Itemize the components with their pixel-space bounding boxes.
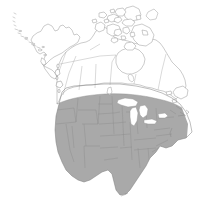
anticosti-island bbox=[166, 91, 172, 95]
arctic-islet-b bbox=[130, 32, 135, 37]
bc-islet-c bbox=[58, 89, 60, 92]
bc-islet-a bbox=[57, 64, 59, 68]
map-figure bbox=[0, 0, 206, 200]
arctic-islet-d bbox=[136, 15, 141, 20]
bc-islet-b bbox=[56, 76, 58, 79]
north-america-map bbox=[0, 0, 206, 200]
